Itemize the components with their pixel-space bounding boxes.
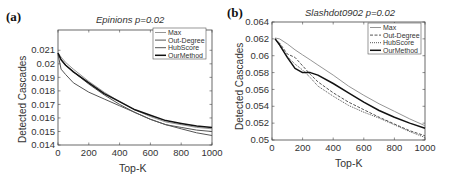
- y-tick-label: 0.014: [31, 139, 55, 150]
- y-tick-label: 0.018: [31, 85, 55, 96]
- x-tick-label: 0: [55, 147, 60, 158]
- x-tick-label: 400: [325, 142, 341, 153]
- y-tick-label: 0.06: [251, 50, 270, 61]
- y-tick-label: 0.02: [37, 58, 56, 69]
- legend-entry-hubscore: HubScore: [383, 39, 414, 46]
- y-tick-label: 0.019: [31, 72, 55, 83]
- legend-entry-ourmethod: OurMethod: [168, 52, 203, 59]
- x-tick-label: 200: [295, 142, 311, 153]
- x-tick-label: 600: [142, 147, 158, 158]
- y-tick-label: 0.016: [31, 112, 55, 123]
- x-tick-label: 600: [356, 142, 372, 153]
- y-tick-label: 0.064: [245, 16, 269, 27]
- y-tick-label: 0.062: [245, 33, 269, 44]
- legend: MaxOut-DegreeHubScoreOurMethod: [153, 28, 206, 59]
- y-tick-label: 0.058: [245, 67, 269, 78]
- plot-area-a: 020040060080010000.0140.0150.0160.0170.0…: [0, 0, 225, 177]
- legend: MaxOut-DegreeHubScoreOurMethod: [368, 23, 421, 54]
- chart-panel-a: (a) Epinions p=0.02 Detected Cascades To…: [0, 0, 225, 177]
- legend-entry-max: Max: [383, 24, 397, 31]
- y-tick-label: 0.021: [31, 44, 55, 55]
- y-tick-label: 0.015: [31, 126, 55, 137]
- legend-entry-ourmethod: OurMethod: [383, 47, 418, 54]
- chart-panel-b: (b) Slashdot0902 p=0.02 Detected Cascade…: [225, 0, 450, 177]
- y-tick-label: 0.056: [245, 84, 269, 95]
- plot-area-b: 020040060080010000.050.0520.0540.0560.05…: [225, 0, 450, 177]
- x-tick-label: 200: [81, 147, 97, 158]
- x-tick-label: 800: [386, 142, 402, 153]
- y-tick-label: 0.05: [251, 134, 270, 145]
- x-tick-label: 1000: [414, 142, 435, 153]
- y-tick-label: 0.052: [245, 117, 269, 128]
- legend-entry-hubscore: HubScore: [168, 44, 199, 51]
- x-tick-label: 400: [112, 147, 128, 158]
- x-tick-label: 0: [269, 142, 274, 153]
- x-tick-label: 1000: [201, 147, 222, 158]
- x-tick-label: 800: [173, 147, 189, 158]
- legend-entry-max: Max: [168, 29, 182, 36]
- y-tick-label: 0.017: [31, 99, 55, 110]
- y-tick-label: 0.054: [245, 100, 269, 111]
